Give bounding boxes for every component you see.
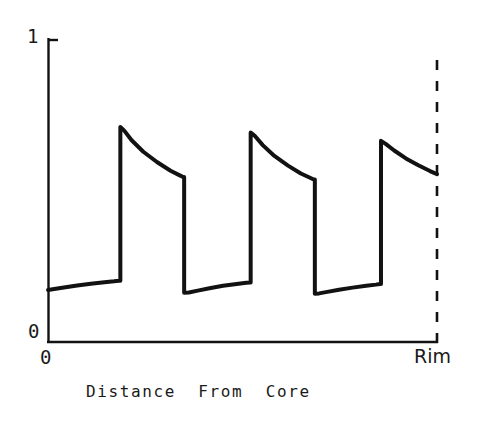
y-axis-tick-label-min: 0	[28, 322, 39, 341]
x-axis-tick-label-rim: Rim	[414, 347, 451, 366]
y-axis-tick-label-max: 1	[27, 27, 38, 46]
chart-figure: 1 0 0 Rim Distance From Core	[0, 0, 482, 427]
chart-plot-area	[0, 0, 482, 427]
data-series-profile	[48, 127, 437, 294]
x-axis-title: Distance From Core	[86, 384, 311, 400]
x-axis-tick-label-core: 0	[40, 348, 51, 367]
